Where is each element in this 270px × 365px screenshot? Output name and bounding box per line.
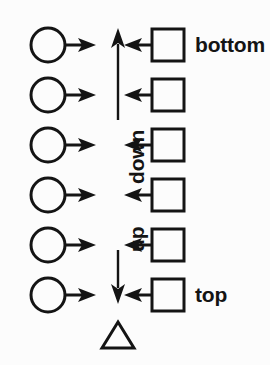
vertical-axis [111, 28, 125, 304]
square-shape [152, 279, 184, 311]
square-shape [152, 79, 184, 111]
circle-shape [31, 228, 65, 262]
row-group [31, 178, 184, 212]
triangle-marker-icon [102, 322, 134, 348]
row-group [31, 78, 184, 112]
square-shape [152, 179, 184, 211]
circle-shape [31, 278, 65, 312]
row-group [31, 228, 184, 262]
row-group [31, 28, 184, 62]
square-shape [152, 29, 184, 61]
row-group [31, 278, 184, 312]
square-shape [152, 229, 184, 261]
row-group [31, 128, 184, 162]
axis-label-up: up [126, 227, 147, 252]
label-bottom: bottom [195, 34, 265, 55]
circle-shape [31, 28, 65, 62]
square-shape [152, 129, 184, 161]
axis-label-down: down [126, 130, 147, 184]
label-top: top [195, 284, 227, 305]
circle-shape [31, 128, 65, 162]
circle-shape [31, 178, 65, 212]
diagram-canvas: bottom top down up [0, 0, 270, 365]
circle-shape [31, 78, 65, 112]
